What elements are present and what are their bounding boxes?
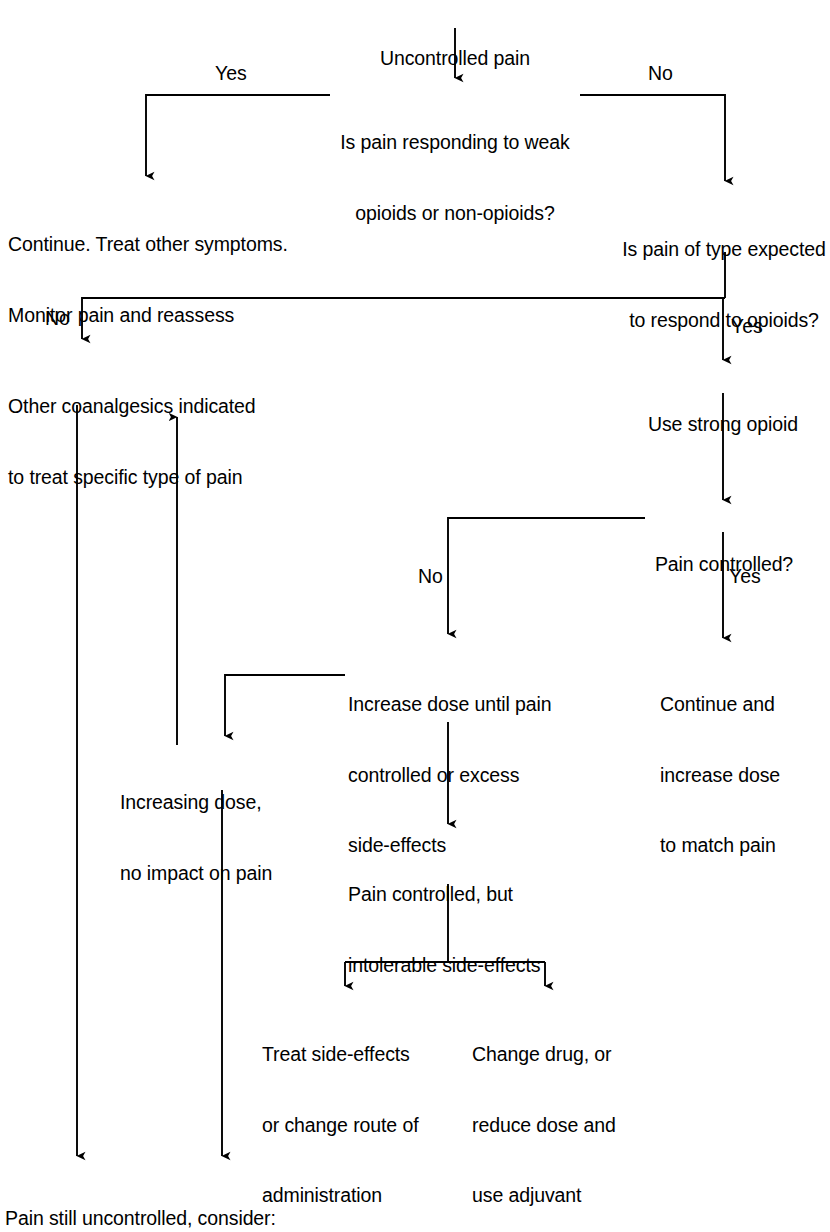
node-line: to respond to opioids? xyxy=(608,309,830,333)
edge-q3-no xyxy=(448,518,645,634)
node-line: or change route of xyxy=(262,1114,462,1138)
node-line: Increasing dose, xyxy=(120,791,330,815)
edge-label-q2-yes: Yes xyxy=(731,315,763,337)
node-continue-treat-other-symptoms: Continue. Treat other symptoms. Monitor … xyxy=(8,186,338,374)
node-line: intolerable side-effects xyxy=(348,954,598,978)
node-line: Treat side-effects xyxy=(262,1043,462,1067)
node-change-drug: Change drug, or reduce dose and use adju… xyxy=(472,996,672,1232)
node-line: Use strong opioid xyxy=(613,413,830,437)
node-pain-still-uncontrolled: Pain still uncontrolled, consider: xyxy=(5,1160,425,1232)
node-line: Pain controlled, but xyxy=(348,883,598,907)
node-line: Other coanalgesics indicated xyxy=(8,395,308,419)
node-line: to treat specific type of pain xyxy=(8,466,308,490)
node-q2-pain-type-opioid-responsive: Is pain of type expected to respond to o… xyxy=(608,191,830,379)
edge-label-q1-no: No xyxy=(648,62,673,84)
node-line: opioids or non-opioids? xyxy=(330,202,580,226)
edge-q1-yes xyxy=(146,95,330,176)
node-line: use adjuvant xyxy=(472,1184,672,1208)
node-line: Is pain responding to weak xyxy=(330,131,580,155)
edge-increase-to-noimpact xyxy=(225,675,345,736)
node-continue-increase-dose: Continue and increase dose to match pain xyxy=(660,646,824,905)
edge-label-q3-no: No xyxy=(418,565,443,587)
node-other-coanalgesics: Other coanalgesics indicated to treat sp… xyxy=(8,348,308,536)
node-line: Pain controlled? xyxy=(640,553,808,577)
node-line: controlled or excess xyxy=(348,764,578,788)
node-line: Continue and xyxy=(660,693,824,717)
node-line: reduce dose and xyxy=(472,1114,672,1138)
node-use-strong-opioid: Use strong opioid xyxy=(613,366,830,484)
node-line: increase dose xyxy=(660,764,824,788)
node-line: Change drug, or xyxy=(472,1043,672,1067)
edge-label-q3-yes: Yes xyxy=(729,565,761,587)
node-line: to match pain xyxy=(660,834,824,858)
node-line: no impact on pain xyxy=(120,862,330,886)
node-line: Uncontrolled pain xyxy=(305,47,605,71)
node-line: Is pain of type expected xyxy=(608,238,830,262)
node-q1-weak-opioids: Is pain responding to weak opioids or no… xyxy=(330,84,580,272)
node-increasing-dose-no-impact: Increasing dose, no impact on pain xyxy=(120,744,330,932)
edge-label-q1-yes: Yes xyxy=(215,62,247,84)
node-q3-pain-controlled: Pain controlled? xyxy=(640,506,808,624)
edge-label-q2-no: No xyxy=(45,307,70,329)
node-line: Continue. Treat other symptoms. xyxy=(8,233,338,257)
node-line: Increase dose until pain xyxy=(348,693,578,717)
node-line: Pain still uncontrolled, consider: xyxy=(5,1207,425,1231)
